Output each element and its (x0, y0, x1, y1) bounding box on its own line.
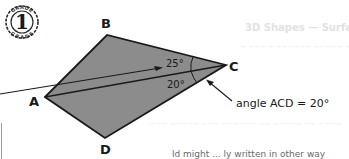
angle-annotation: angle ACD = 20° (236, 97, 329, 110)
vertex-label-a: A (29, 94, 39, 109)
cropped-body-text: ld might ... ly written in other way (172, 149, 325, 159)
annotation-arrow-line (209, 82, 232, 101)
geometry-diagram: GRADE GRADE 1 25° 20° B C A D angle ACD … (0, 0, 349, 159)
vertex-label-c: C (229, 59, 239, 74)
badge-number: 1 (15, 10, 29, 34)
grade-badge-icon: GRADE GRADE 1 (6, 4, 38, 40)
quadrilateral-abcd (45, 35, 226, 138)
angle-label-upper: 25° (166, 58, 184, 69)
vertex-label-b: B (101, 16, 111, 31)
vertex-label-d: D (100, 142, 111, 157)
angle-label-lower: 20° (167, 79, 185, 90)
